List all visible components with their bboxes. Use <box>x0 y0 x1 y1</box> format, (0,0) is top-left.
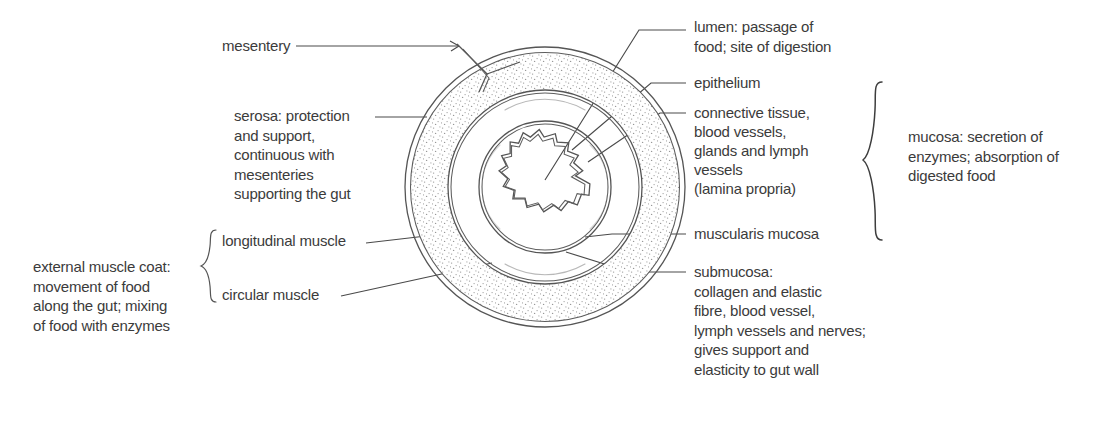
label-external-muscle-coat: external muscle coat: movement of food a… <box>33 257 171 335</box>
brace-mucosa <box>863 82 882 240</box>
label-epithelium: epithelium <box>694 73 760 93</box>
label-mucosa: mucosa: secretion of enzymes; absorption… <box>908 127 1059 186</box>
label-muscularis-mucosa: muscularis mucosa <box>694 224 819 244</box>
submucosa-stipple-band <box>400 42 692 334</box>
label-serosa: serosa: protection and support, continuo… <box>234 106 351 204</box>
label-connective-tissue: connective tissue, blood vessels, glands… <box>694 103 810 198</box>
gut-wall-rings <box>400 42 692 334</box>
label-longitudinal-muscle: longitudinal muscle <box>222 231 346 251</box>
gut-cross-section-diagram <box>0 0 1119 429</box>
label-lumen: lumen: passage of food; site of digestio… <box>694 17 831 56</box>
label-mesentery: mesentery <box>222 36 290 56</box>
brace-external-muscle-coat <box>201 230 216 302</box>
label-submucosa: submucosa: collagen and elastic fibre, b… <box>694 262 866 379</box>
label-circular-muscle: circular muscle <box>222 285 319 305</box>
